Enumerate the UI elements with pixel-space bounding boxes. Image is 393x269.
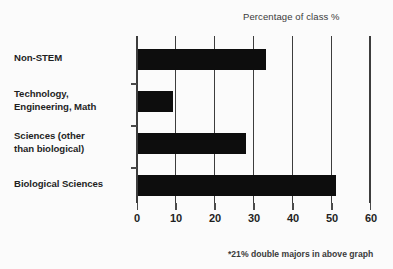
x-axis-tick-label-20: 20 xyxy=(200,212,230,224)
x-axis-tick xyxy=(214,203,216,210)
x-axis-tick xyxy=(175,203,177,210)
x-axis-tick-label-40: 40 xyxy=(278,212,308,224)
x-axis-tick-label-30: 30 xyxy=(239,212,269,224)
bar-non-stem[interactable] xyxy=(138,49,266,70)
x-axis-tick xyxy=(137,203,139,210)
bar-technology-engineering-math[interactable] xyxy=(138,91,173,112)
y-axis-label-technology-engineering-math: Technology, Engineering, Math xyxy=(14,88,136,113)
x-axis-tick xyxy=(331,203,333,210)
x-axis-tick-label-10: 10 xyxy=(161,212,191,224)
x-axis-tick-label-0: 0 xyxy=(122,212,152,224)
x-axis-tick xyxy=(292,203,294,210)
plot-area xyxy=(136,36,370,203)
gridline-60 xyxy=(369,36,371,203)
bar-chart-figure: Percentage of class % Non-STEM Technolog… xyxy=(0,0,393,269)
x-axis-tick-label-50: 50 xyxy=(317,212,347,224)
x-axis-tick xyxy=(253,203,255,210)
y-axis-label-line: Non-STEM xyxy=(14,52,136,65)
y-axis-tick xyxy=(131,167,137,169)
y-axis-label-sciences-other-than-biological: Sciences (other than biological) xyxy=(14,130,136,155)
y-axis-tick xyxy=(131,83,137,85)
y-axis-tick xyxy=(131,125,137,127)
bar-biological-sciences[interactable] xyxy=(138,175,336,196)
y-axis-line xyxy=(136,36,138,203)
bar-sciences-other-than-biological[interactable] xyxy=(138,133,247,154)
y-axis-label-line: Technology, xyxy=(14,88,136,101)
y-axis-label-line: Biological Sciences xyxy=(14,178,136,191)
y-axis-label-line: Engineering, Math xyxy=(14,101,136,114)
y-axis-label-line: Sciences (other xyxy=(14,130,136,143)
x-axis-tick-label-60: 60 xyxy=(356,212,386,224)
y-axis-label-line: than biological) xyxy=(14,143,136,156)
x-axis-tick xyxy=(370,203,372,210)
chart-title: Percentage of class % xyxy=(243,11,388,22)
chart-footnote: *21% double majors in above graph xyxy=(228,249,393,259)
